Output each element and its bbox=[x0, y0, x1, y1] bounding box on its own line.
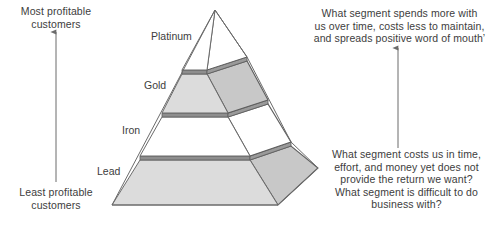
tier-label-iron: Iron bbox=[122, 124, 140, 136]
top-right-annotation: What segment spends more with us over ti… bbox=[296, 7, 503, 45]
tier-lead-front-face bbox=[112, 160, 278, 205]
tier-label-platinum: Platinum bbox=[151, 30, 192, 42]
bottom-right-annotation: What segment costs us in time, effort, a… bbox=[310, 148, 503, 211]
tier-label-lead: Lead bbox=[97, 165, 120, 177]
pyramid-graphic bbox=[112, 10, 318, 205]
tier-gold-top-band bbox=[182, 70, 207, 74]
most-profitable-customers-label: Most profitable customers bbox=[2, 5, 110, 30]
tier-lead-top-band bbox=[140, 156, 250, 160]
tier-label-gold: Gold bbox=[144, 79, 166, 91]
tier-iron-top-band bbox=[162, 113, 228, 117]
least-profitable-customers-label: Least profitable customers bbox=[2, 186, 110, 211]
